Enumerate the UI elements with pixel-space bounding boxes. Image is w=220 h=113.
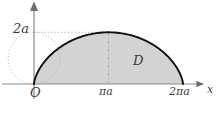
origin-label: O: [30, 86, 41, 99]
y-tick-label-2a: 2a: [13, 22, 29, 35]
x-axis-label: x: [207, 84, 213, 95]
region-label-D: D: [133, 54, 143, 67]
cycloid-figure: 2a O πa 2πa x D: [0, 0, 220, 113]
x-tick-label-pia: πa: [99, 86, 113, 97]
x-tick-label-2pia: 2πa: [169, 86, 190, 97]
